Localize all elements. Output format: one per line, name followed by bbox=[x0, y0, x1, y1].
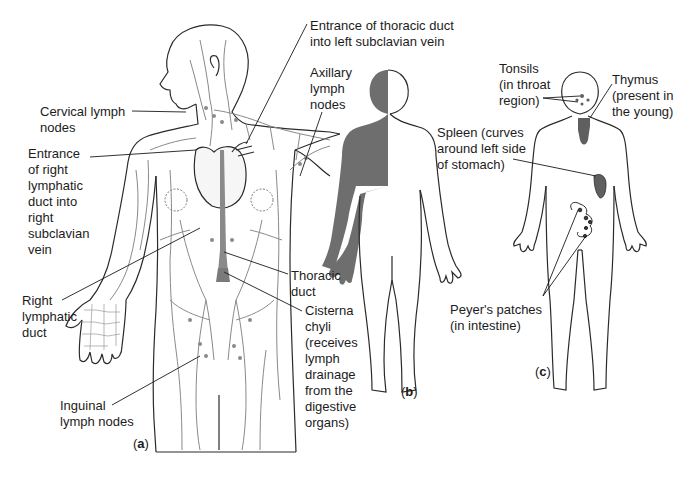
label-thoracic-duct: Thoracic duct bbox=[291, 268, 341, 300]
label-cisterna-chyli: Cisterna chyli (receives lymph drainage … bbox=[305, 303, 358, 431]
label-spleen: Spleen (curves around left side of stoma… bbox=[437, 125, 526, 173]
panel-a-figure bbox=[66, 25, 340, 452]
label-peyers-patches: Peyer's patches (in intestine) bbox=[450, 302, 542, 334]
label-inguinal-lymph-nodes: Inguinal lymph nodes bbox=[60, 398, 134, 430]
hand-lymph-mesh bbox=[80, 304, 120, 350]
label-right-lymphatic-duct: Right lymphatic duct bbox=[22, 293, 77, 341]
spleen bbox=[594, 174, 606, 198]
panel-label-b: (b) bbox=[401, 384, 418, 399]
label-entrance-thoracic-duct: Entrance of thoracic duct into left subc… bbox=[310, 18, 454, 50]
label-cervical-lymph-nodes: Cervical lymph nodes bbox=[40, 104, 125, 136]
thymus bbox=[578, 118, 590, 145]
label-thymus: Thymus (present in the young) bbox=[612, 72, 673, 120]
label-tonsils: Tonsils (in throat region) bbox=[499, 61, 550, 109]
panel-label-c: (c) bbox=[535, 364, 551, 379]
panel-label-a: (a) bbox=[133, 436, 149, 451]
label-axillary-lymph-nodes: Axillary lymph nodes bbox=[310, 65, 352, 113]
label-entrance-right-lymphatic-duct: Entrance of right lymphatic duct into ri… bbox=[28, 146, 89, 258]
